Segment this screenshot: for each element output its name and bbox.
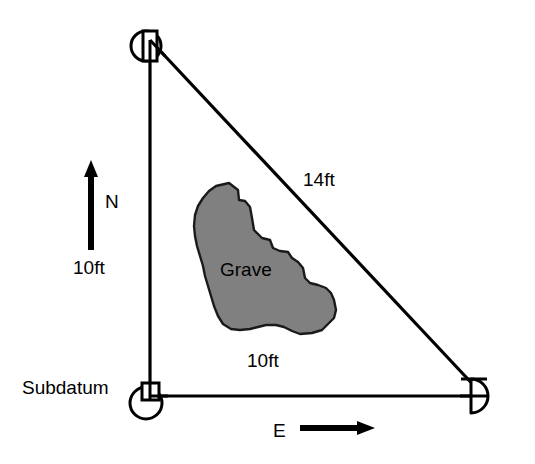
hypotenuse-measure-label: 14ft (303, 170, 335, 189)
datum-point-north-marker (131, 31, 165, 61)
north-direction-label: N (105, 192, 119, 211)
north-leg-measure-label: 10ft (73, 258, 105, 277)
east-leg-measure-label: 10ft (247, 351, 279, 370)
north-arrow-icon (84, 160, 98, 250)
datum-point-east-marker (460, 379, 489, 413)
east-arrow-icon (300, 421, 375, 435)
datum-point-subdatum-marker (130, 383, 168, 419)
grave-feature-label: Grave (220, 260, 272, 279)
grave-plan-diagram: Subdatum 10ft N 14ft 10ft Grave E (0, 0, 535, 464)
east-direction-label: E (273, 421, 286, 440)
subdatum-label: Subdatum (22, 378, 109, 397)
